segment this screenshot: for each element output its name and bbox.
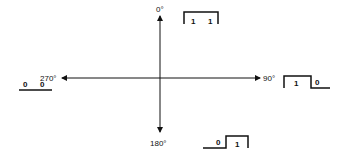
waveform-right: 1 0	[284, 76, 330, 88]
waveform-bottom: 0 1	[203, 136, 248, 149]
label-0-deg: 0°	[156, 5, 164, 14]
svg-text:0: 0	[216, 138, 221, 147]
axes	[62, 16, 260, 132]
svg-text:1: 1	[294, 79, 299, 88]
label-180-deg: 180°	[150, 139, 167, 148]
svg-text:1: 1	[208, 17, 213, 26]
quadrant-diagram: 0° 90° 180° 270° 1 1 0 0 1 0 0 1	[0, 0, 347, 160]
svg-text:1: 1	[191, 17, 196, 26]
svg-text:0: 0	[315, 78, 320, 87]
svg-text:0: 0	[23, 80, 28, 89]
waveform-top: 1 1	[184, 12, 218, 26]
label-90-deg: 90°	[263, 74, 275, 83]
svg-text:1: 1	[235, 140, 240, 149]
svg-text:0: 0	[40, 80, 45, 89]
